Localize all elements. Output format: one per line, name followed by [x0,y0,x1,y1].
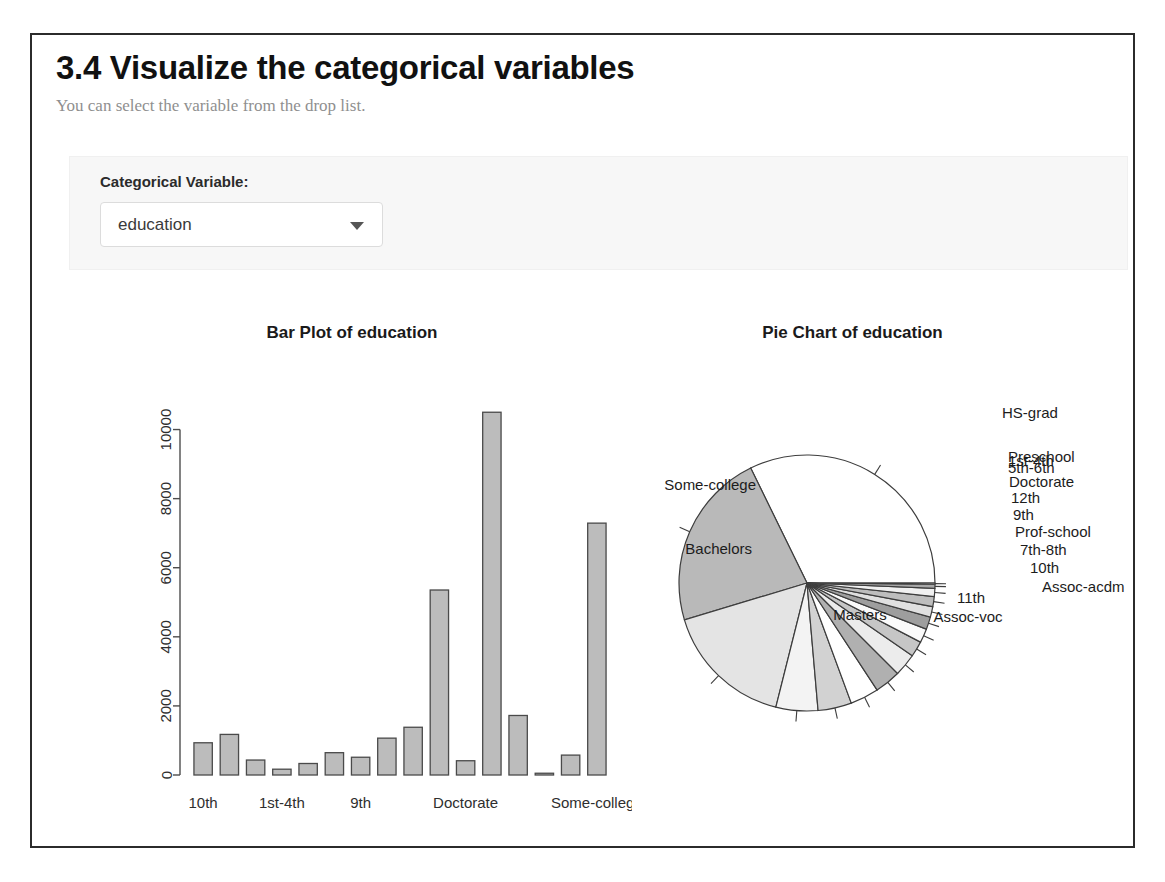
page-title: 3.4 Visualize the categorical variables [56,49,1133,87]
pie-leader [835,708,837,719]
select-selected-value: education [118,215,192,235]
pie-chart-svg: HS-gradSome-collegeBachelorsMastersAssoc… [632,290,1133,835]
pie-label-hs-grad: HS-grad [1002,404,1058,421]
y-tick-label: 2000 [158,689,175,722]
bar-some-college [588,523,606,775]
pie-label-masters: Masters [833,606,886,623]
pie-leader [711,676,719,684]
pie-label-12th: 12th [1011,489,1040,506]
bar-plot-pane: Bar Plot of education 020004000600080001… [72,290,632,835]
bar-masters [509,715,527,775]
bar-11th [220,734,238,775]
pie-label-10th: 10th [1030,559,1059,576]
chevron-down-icon[interactable] [350,222,364,230]
bar-10th [194,743,212,775]
pie-leader [905,665,913,672]
pie-leader [934,602,945,604]
bar-9th [351,757,369,775]
bar-preschool [535,773,553,775]
y-tick-label: 6000 [158,551,175,584]
screenshot-root: 3.4 Visualize the categorical variables … [0,0,1165,882]
app-panel: 3.4 Visualize the categorical variables … [30,33,1135,848]
categorical-variable-select[interactable]: education [100,202,383,247]
pie-leader [796,711,797,722]
bar-12th [246,760,264,775]
x-tick-label: Doctorate [433,794,498,811]
y-tick-label: 10000 [158,409,175,451]
pie-leader [680,527,690,531]
bar-plot-svg: 020004000600080001000010th1st-4th9thDoct… [72,290,632,835]
pie-label-preschool: Preschool [1008,448,1075,465]
bar-prof-school [561,755,579,775]
control-well: Categorical Variable: education [69,156,1128,270]
pie-leader [935,593,946,594]
pie-label-bachelors: Bachelors [685,540,752,557]
pie-label-some-college: Some-college [664,476,756,493]
pie-label-assoc-voc: Assoc-voc [933,608,1003,625]
categorical-variable-label: Categorical Variable: [100,173,1127,190]
bar-5th-6th [299,763,317,775]
bar-doctorate [456,761,474,775]
pie-label-7th-8th: 7th-8th [1020,541,1067,558]
pie-leader [865,697,870,707]
pie-leader [924,636,934,641]
x-tick-label: 10th [189,794,218,811]
x-tick-label: 9th [350,794,371,811]
pie-leader [888,682,895,691]
pie-label-11th: 11th [957,589,985,606]
bar-assoc-voc [404,727,422,775]
pie-label-assoc-acdm: Assoc-acdm [1042,578,1125,595]
bar-hs-grad [483,412,501,775]
pie-leader [917,649,926,655]
bar-assoc-acdm [378,738,396,775]
pie-leader [875,465,881,474]
plots-container: Bar Plot of education 020004000600080001… [32,290,1133,835]
bar-plot-title: Bar Plot of education [72,323,632,343]
pie-chart-title: Pie Chart of education [632,323,1133,343]
pie-chart-pane: Pie Chart of education HS-gradSome-colle… [632,290,1133,835]
page-subtitle: You can select the variable from the dro… [56,96,1133,116]
x-tick-label: 1st-4th [259,794,305,811]
y-tick-label: 8000 [158,482,175,515]
bar-7th-8th [325,753,343,775]
y-tick-label: 0 [158,771,175,779]
x-tick-label: Some-college [551,794,632,811]
bar-1st-4th [273,769,291,775]
bar-bachelors [430,590,448,775]
pie-label-9th: 9th [1013,506,1034,523]
pie-label-prof-school: Prof-school [1015,523,1091,540]
y-tick-label: 4000 [158,620,175,653]
